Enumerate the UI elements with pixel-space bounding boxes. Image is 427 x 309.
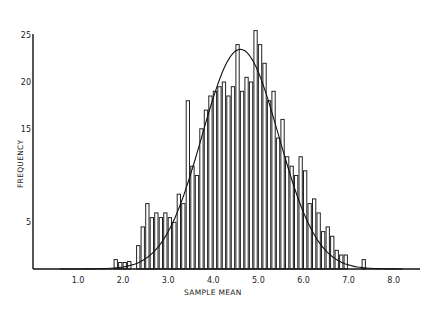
- histogram-bar: [227, 96, 230, 269]
- histogram-bar: [155, 213, 158, 269]
- y-tick-label: 20: [21, 78, 31, 87]
- histogram-bar: [231, 87, 234, 269]
- x-tick-label: 1.0: [72, 276, 85, 285]
- x-tick-labels: 1.02.03.04.05.06.07.08.0: [72, 276, 400, 285]
- histogram-bars: [114, 31, 365, 270]
- x-tick-label: 5.0: [252, 276, 265, 285]
- y-tick-label: 15: [21, 125, 31, 134]
- x-tick-label: 4.0: [207, 276, 220, 285]
- histogram-bar: [164, 213, 167, 269]
- x-tick-label: 8.0: [387, 276, 400, 285]
- histogram-bar: [276, 138, 279, 269]
- x-tick-label: 7.0: [342, 276, 355, 285]
- histogram-bar: [182, 204, 185, 270]
- histogram-bar: [200, 129, 203, 269]
- histogram-bar: [218, 87, 221, 269]
- histogram-bar: [331, 236, 334, 269]
- histogram-bar: [299, 157, 302, 269]
- x-tick-label: 2.0: [117, 276, 130, 285]
- histogram-bar: [267, 101, 270, 269]
- histogram-bar: [344, 255, 347, 269]
- histogram-chart: 5152025 1.02.03.04.05.06.07.08.0 SAMPLE …: [0, 0, 427, 309]
- y-tick-labels: 5152025: [21, 31, 31, 227]
- y-axis-label: FREQUENCY: [16, 139, 25, 188]
- histogram-bar: [137, 246, 140, 269]
- histogram-bar: [204, 110, 207, 269]
- histogram-bar: [141, 227, 144, 269]
- histogram-bar: [281, 119, 284, 269]
- histogram-bar: [209, 96, 212, 269]
- histogram-bar: [213, 91, 216, 269]
- histogram-bar: [222, 82, 225, 269]
- y-tick-label: 5: [26, 218, 31, 227]
- histogram-bar: [236, 45, 239, 269]
- histogram-bar: [123, 263, 126, 270]
- histogram-bar: [245, 77, 248, 269]
- histogram-bar: [173, 222, 176, 269]
- histogram-bar: [249, 82, 252, 269]
- histogram-bar: [146, 204, 149, 270]
- histogram-bar: [191, 166, 194, 269]
- histogram-bar: [308, 204, 311, 270]
- x-tick-label: 6.0: [297, 276, 310, 285]
- histogram-bar: [286, 157, 289, 269]
- histogram-bar: [326, 227, 329, 269]
- x-axis-label: SAMPLE MEAN: [184, 288, 242, 297]
- histogram-bar: [240, 91, 243, 269]
- y-tick-label: 25: [21, 31, 31, 40]
- x-tick-label: 3.0: [162, 276, 175, 285]
- histogram-bar: [322, 232, 325, 269]
- histogram-bar: [195, 176, 198, 270]
- histogram-bar: [150, 218, 153, 269]
